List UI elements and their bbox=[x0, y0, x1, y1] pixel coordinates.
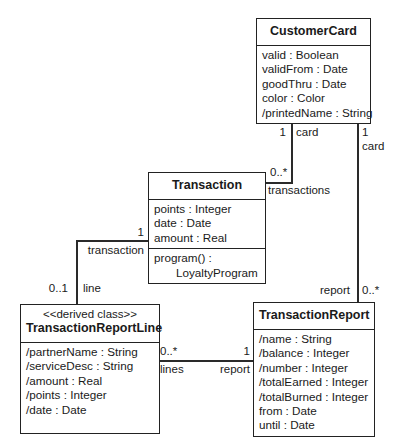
attribute-item: /totalBurned : Integer bbox=[259, 390, 369, 404]
attribute-item: valid : Boolean bbox=[262, 48, 365, 62]
label-report-lines-to-multiplicity: 1 bbox=[212, 345, 250, 358]
transaction-report-line-class-name: TransactionReportLine bbox=[26, 321, 154, 339]
label-report-lines-from-multiplicity: 0..* bbox=[160, 345, 177, 358]
label-report-lines-to-role: report bbox=[194, 363, 250, 376]
label-card-report-from-role: card bbox=[362, 140, 384, 153]
attribute-item: /number : Integer bbox=[259, 361, 369, 375]
customer-card-name-compartment: CustomerCard bbox=[257, 19, 370, 45]
class-box-transaction-report[interactable]: TransactionReport /name : String /balanc… bbox=[253, 302, 375, 437]
label-transaction-line-from-multiplicity: 1 bbox=[120, 226, 144, 239]
label-card-transactions-from-role: card bbox=[296, 126, 318, 139]
attribute-item: goodThru : Date bbox=[262, 77, 365, 91]
label-card-report-from-multiplicity: 1 bbox=[362, 126, 368, 139]
attribute-item: until : Date bbox=[259, 418, 369, 432]
attribute-item: /balance : Integer bbox=[259, 346, 369, 360]
attribute-item: amount : Real bbox=[154, 231, 260, 245]
label-transaction-line-from-role: transaction bbox=[70, 244, 144, 257]
label-card-report-to-role: report bbox=[294, 284, 350, 297]
transaction-class-name: Transaction bbox=[154, 175, 260, 196]
edge-report-lines-horizontal bbox=[155, 360, 254, 362]
attribute-item: /totalEarned : Integer bbox=[259, 375, 369, 389]
label-transaction-line-to-multiplicity: 0..1 bbox=[24, 282, 68, 295]
transaction-attributes-compartment: points : Integer date : Date amount : Re… bbox=[149, 199, 265, 248]
transaction-report-line-name-compartment: <<derived class>> TransactionReportLine bbox=[21, 305, 159, 342]
transaction-report-class-name: TransactionReport bbox=[259, 305, 369, 326]
attribute-item: /printedName : String bbox=[262, 106, 365, 120]
class-box-customer-card[interactable]: CustomerCard valid : Boolean validFrom :… bbox=[256, 18, 371, 124]
class-box-transaction[interactable]: Transaction points : Integer date : Date… bbox=[148, 172, 266, 284]
label-report-lines-from-role: lines bbox=[160, 363, 184, 376]
class-box-transaction-report-line[interactable]: <<derived class>> TransactionReportLine … bbox=[20, 304, 160, 434]
customer-card-class-name: CustomerCard bbox=[262, 21, 365, 42]
transaction-name-compartment: Transaction bbox=[149, 173, 265, 199]
operation-item-continuation: LoyaltyProgram bbox=[154, 266, 260, 280]
label-card-transactions-from-multiplicity: 1 bbox=[262, 126, 286, 139]
transaction-report-name-compartment: TransactionReport bbox=[254, 303, 374, 329]
label-transaction-line-to-role: line bbox=[83, 282, 101, 295]
edge-card-report-vertical bbox=[357, 120, 359, 303]
transaction-report-line-attributes-compartment: /partnerName : String /serviceDesc : Str… bbox=[21, 342, 159, 433]
attribute-item: /serviceDesc : String bbox=[26, 359, 154, 373]
attribute-item: date : Date bbox=[154, 216, 260, 230]
attribute-item: color : Color bbox=[262, 91, 365, 105]
customer-card-attributes-compartment: valid : Boolean validFrom : Date goodThr… bbox=[257, 45, 370, 123]
label-card-transactions-to-multiplicity: 0..* bbox=[270, 166, 287, 179]
edge-transaction-line-horizontal bbox=[76, 240, 149, 242]
attribute-item: /amount : Real bbox=[26, 374, 154, 388]
attribute-item: from : Date bbox=[259, 404, 369, 418]
label-card-transactions-to-role: transactions bbox=[268, 184, 330, 197]
attribute-item: /name : String bbox=[259, 332, 369, 346]
edge-card-transactions-vertical bbox=[291, 120, 293, 184]
attribute-item: /date : Date bbox=[26, 403, 154, 417]
transaction-operations-compartment: program() : LoyaltyProgram bbox=[149, 248, 265, 283]
attribute-item: /partnerName : String bbox=[26, 345, 154, 359]
transaction-report-attributes-compartment: /name : String /balance : Integer /numbe… bbox=[254, 329, 374, 436]
operation-item: program() : bbox=[154, 251, 260, 265]
uml-class-diagram-canvas: 1 card 0..* transactions 1 card report 0… bbox=[0, 0, 412, 446]
attribute-item: validFrom : Date bbox=[262, 62, 365, 76]
transaction-report-line-stereotype: <<derived class>> bbox=[26, 307, 154, 321]
label-card-report-to-multiplicity: 0..* bbox=[362, 284, 379, 297]
attribute-item: points : Integer bbox=[154, 202, 260, 216]
attribute-item: /points : Integer bbox=[26, 388, 154, 402]
